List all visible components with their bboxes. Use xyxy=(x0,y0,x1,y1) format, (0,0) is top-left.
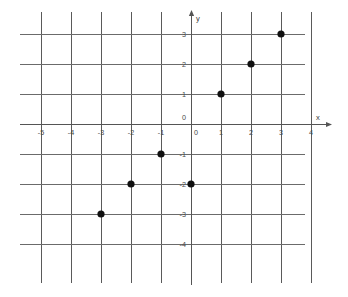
data-point xyxy=(97,210,104,217)
x-tick-label: 2 xyxy=(249,128,253,137)
data-point xyxy=(217,90,224,97)
data-point xyxy=(127,180,134,187)
y-tick-label: -1 xyxy=(180,150,186,159)
grid-horizontal-lines xyxy=(20,35,305,245)
x-tick-label: -2 xyxy=(128,128,134,137)
x-tick-label: -5 xyxy=(38,128,44,137)
x-tick-label: -1 xyxy=(158,128,164,137)
x-axis-name-label: x xyxy=(316,113,320,122)
y-tick-label: -3 xyxy=(180,210,186,219)
data-point xyxy=(277,30,284,37)
x-tick-label: 4 xyxy=(309,128,313,137)
x-tick-label: -4 xyxy=(68,128,74,137)
y-tick-label: 1 xyxy=(182,90,186,99)
coordinate-plane-graph: -5-4-3-2-101234 3210-1-2-3-4 yx xyxy=(0,0,348,297)
y-axis-tick-labels: 3210-1-2-3-4 xyxy=(180,30,186,249)
y-tick-label: -2 xyxy=(180,180,186,189)
y-tick-label: 0 xyxy=(182,113,186,122)
data-point xyxy=(187,180,194,187)
data-point xyxy=(247,60,254,67)
scatter-plot-svg: -5-4-3-2-101234 3210-1-2-3-4 yx xyxy=(0,0,348,297)
x-tick-label: 1 xyxy=(219,128,223,137)
x-axis-arrow-icon xyxy=(326,122,332,127)
x-axis-tick-labels: -5-4-3-2-101234 xyxy=(38,128,313,137)
data-point xyxy=(157,150,164,157)
y-axis-arrow-icon xyxy=(189,10,194,16)
grid-vertical-lines xyxy=(42,12,312,283)
axis-name-labels: yx xyxy=(196,14,320,122)
y-axis-name-label: y xyxy=(196,14,200,23)
y-tick-label: 2 xyxy=(182,60,186,69)
x-tick-label: -3 xyxy=(98,128,104,137)
x-tick-label: 0 xyxy=(194,128,198,137)
axis-lines xyxy=(20,10,332,285)
y-tick-label: -4 xyxy=(180,240,186,249)
x-tick-label: 3 xyxy=(279,128,283,137)
y-tick-label: 3 xyxy=(182,30,186,39)
